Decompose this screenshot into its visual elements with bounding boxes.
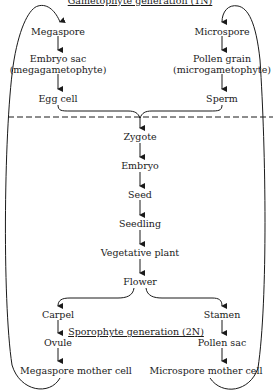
node-pollen-sac: Pollen sac <box>198 337 246 348</box>
node-embryo-sac-sub: (megagametophyte) <box>10 64 107 75</box>
node-egg-cell: Egg cell <box>38 93 77 104</box>
sporophyte-title: Sporophyte generation (2N) <box>68 326 204 337</box>
node-ovule: Ovule <box>44 337 72 348</box>
node-microspore: Microspore <box>194 26 249 37</box>
node-sperm: Sperm <box>206 93 238 104</box>
node-zygote: Zygote <box>123 131 156 142</box>
fertilization-brace <box>58 105 222 118</box>
node-flower: Flower <box>123 276 157 287</box>
node-embryo: Embryo <box>121 160 159 171</box>
node-microspore-mother-cell: Microspore mother cell <box>149 365 262 376</box>
node-seedling: Seedling <box>119 218 161 229</box>
node-megaspore: Megaspore <box>31 26 85 37</box>
node-megaspore-mother-cell: Megaspore mother cell <box>20 365 132 376</box>
node-stamen: Stamen <box>204 309 241 320</box>
node-seed: Seed <box>128 189 152 200</box>
node-pollen-grain: Pollen grain <box>193 53 251 64</box>
gametophyte-title: Gametophyte generation (1N) <box>68 0 213 6</box>
node-carpel: Carpel <box>42 309 74 320</box>
node-vegetative-plant: Vegetative plant <box>101 247 179 258</box>
node-embryo-sac: Embryo sac <box>30 53 87 64</box>
node-pollen-grain-sub: (microgametophyte) <box>173 64 271 75</box>
